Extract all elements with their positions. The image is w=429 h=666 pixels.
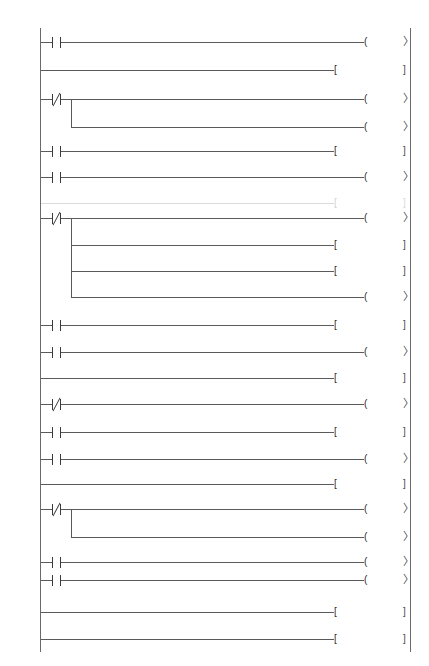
rail-terminator: ] — [403, 320, 406, 329]
rung-wire-segment — [61, 99, 364, 100]
contact-bar-left — [52, 575, 53, 586]
instruction-bracket: [ — [334, 241, 337, 249]
coil-paren: ( — [364, 576, 368, 584]
output-instruction[interactable]: [ — [334, 428, 337, 436]
rung-wire-segment — [71, 245, 334, 246]
rail-terminator: ] — [403, 479, 406, 488]
instruction-bracket: [ — [334, 267, 337, 275]
contact-bar-left — [52, 37, 53, 48]
contact-bar-left — [52, 427, 53, 438]
rung-wire-segment — [41, 580, 52, 581]
left-power-rail — [40, 28, 41, 652]
rail-terminator: 〉 — [403, 37, 414, 46]
rung-wire-segment — [41, 151, 52, 152]
output-coil[interactable]: ( — [364, 576, 368, 584]
instruction-bracket: [ — [334, 608, 337, 616]
rung-wire-segment — [41, 203, 334, 204]
rung-wire-segment — [71, 127, 364, 128]
rung-wire-segment — [41, 325, 52, 326]
rail-terminator: 〉 — [403, 172, 414, 181]
rail-terminator: 〉 — [403, 454, 414, 463]
rail-terminator: ] — [403, 607, 406, 616]
instruction-bracket: [ — [334, 428, 337, 436]
instruction-bracket: [ — [334, 147, 337, 155]
contact-slash — [53, 93, 61, 106]
output-coil[interactable]: ( — [364, 455, 368, 463]
contact-slash — [53, 398, 61, 411]
output-coil[interactable]: ( — [364, 400, 368, 408]
coil-paren: ( — [364, 214, 368, 222]
rung-wire-segment — [41, 509, 52, 510]
coil-paren: ( — [364, 348, 368, 356]
rung-wire-segment — [41, 562, 52, 563]
output-coil[interactable]: ( — [364, 38, 368, 46]
rung-wire-segment — [61, 459, 364, 460]
rail-terminator: 〉 — [403, 399, 414, 408]
rung-wire-segment — [61, 432, 334, 433]
instruction-bracket: [ — [334, 321, 337, 329]
rung-wire-segment — [41, 459, 52, 460]
output-instruction[interactable]: [ — [334, 241, 337, 249]
rail-terminator: 〉 — [403, 504, 414, 513]
rail-terminator: ] — [403, 65, 406, 74]
contact-bar-left — [52, 146, 53, 157]
branch-link — [71, 99, 72, 127]
output-coil[interactable]: ( — [364, 173, 368, 181]
branch-link — [71, 509, 72, 537]
instruction-bracket: [ — [334, 199, 337, 207]
output-instruction[interactable]: [ — [334, 374, 337, 382]
rung-wire-segment — [41, 639, 334, 640]
rail-terminator: ] — [403, 146, 406, 155]
output-instruction[interactable]: [ — [334, 635, 337, 643]
rail-terminator: ] — [403, 266, 406, 275]
rung-wire-segment — [41, 99, 52, 100]
output-coil[interactable]: ( — [364, 95, 368, 103]
rail-terminator: 〉 — [403, 122, 414, 131]
rail-terminator: 〉 — [403, 557, 414, 566]
rail-terminator: ] — [403, 198, 406, 207]
contact-bar-left — [52, 557, 53, 568]
output-coil[interactable]: ( — [364, 214, 368, 222]
output-instruction[interactable]: [ — [334, 199, 337, 207]
rung-wire-segment — [61, 151, 334, 152]
output-coil[interactable]: ( — [364, 558, 368, 566]
rail-terminator: 〉 — [403, 94, 414, 103]
rung-wire-segment — [41, 404, 52, 405]
coil-paren: ( — [364, 123, 368, 131]
output-coil[interactable]: ( — [364, 348, 368, 356]
rail-terminator: ] — [403, 634, 406, 643]
output-coil[interactable]: ( — [364, 505, 368, 513]
instruction-bracket: [ — [334, 66, 337, 74]
rung-wire-segment — [41, 352, 52, 353]
output-coil[interactable]: ( — [364, 123, 368, 131]
rung-wire-segment — [41, 70, 334, 71]
rail-terminator: 〉 — [403, 532, 414, 541]
output-coil[interactable]: ( — [364, 533, 368, 541]
rung-wire-segment — [71, 271, 334, 272]
output-instruction[interactable]: [ — [334, 608, 337, 616]
output-instruction[interactable]: [ — [334, 147, 337, 155]
branch-link — [71, 218, 72, 297]
rung-wire-segment — [61, 562, 364, 563]
rung-wire-segment — [61, 509, 364, 510]
contact-bar-left — [52, 347, 53, 358]
coil-paren: ( — [364, 455, 368, 463]
rail-terminator: 〉 — [403, 213, 414, 222]
output-instruction[interactable]: [ — [334, 66, 337, 74]
rail-terminator: 〉 — [403, 575, 414, 584]
instruction-bracket: [ — [334, 635, 337, 643]
coil-paren: ( — [364, 95, 368, 103]
coil-paren: ( — [364, 173, 368, 181]
output-instruction[interactable]: [ — [334, 321, 337, 329]
rail-terminator: 〉 — [403, 292, 414, 301]
rung-wire-segment — [41, 484, 334, 485]
contact-bar-left — [52, 454, 53, 465]
output-instruction[interactable]: [ — [334, 267, 337, 275]
rung-wire-segment — [71, 297, 364, 298]
rung-wire-segment — [41, 42, 52, 43]
rung-wire-segment — [61, 177, 364, 178]
rail-terminator: 〉 — [403, 347, 414, 356]
output-coil[interactable]: ( — [364, 293, 368, 301]
output-instruction[interactable]: [ — [334, 480, 337, 488]
coil-paren: ( — [364, 400, 368, 408]
